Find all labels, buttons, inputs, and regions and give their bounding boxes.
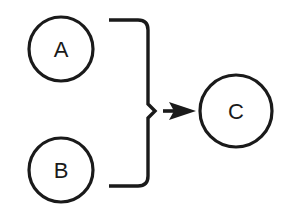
node-c-label: C — [228, 99, 244, 124]
node-a-label: A — [54, 37, 69, 62]
node-c: C — [200, 75, 272, 147]
curly-brace-connector — [109, 20, 155, 186]
node-b-label: B — [54, 158, 69, 183]
node-b: B — [29, 138, 93, 202]
arrow-to-c-icon — [163, 102, 196, 120]
node-a: A — [29, 17, 93, 81]
diagram-canvas: A B C — [0, 0, 293, 213]
